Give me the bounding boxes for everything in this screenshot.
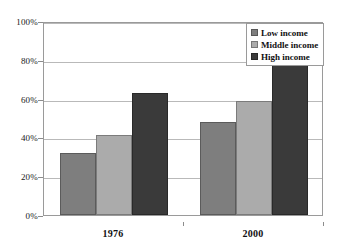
bar-chart: 0%20%40%60%80%100% 19762000 Low incomeMi…	[0, 0, 349, 252]
bar	[132, 93, 168, 215]
legend-item: Middle income	[251, 39, 320, 50]
y-axis-tick-label: 20%	[0, 173, 38, 182]
legend-item-label: High income	[261, 52, 310, 62]
y-axis-tick-label: 40%	[0, 134, 38, 143]
y-axis-tick-mark	[38, 61, 43, 62]
x-axis-tick-label: 1976	[83, 228, 143, 240]
legend-swatch-high-income	[251, 53, 258, 60]
bar	[272, 64, 308, 215]
bar	[200, 122, 236, 215]
x-axis-tick-mark	[183, 222, 184, 226]
chart-legend: Low incomeMiddle incomeHigh income	[246, 23, 324, 66]
x-axis-tick-mark	[323, 222, 324, 226]
bar-group	[60, 23, 168, 215]
legend-item-label: Low income	[261, 28, 308, 38]
x-axis-tick-label: 2000	[223, 228, 283, 240]
bar	[96, 135, 132, 215]
y-axis: 0%20%40%60%80%100%	[0, 22, 38, 216]
y-axis-tick-label: 0%	[0, 212, 38, 221]
bar	[236, 101, 272, 215]
y-axis-tick-mark	[38, 100, 43, 101]
y-axis-tick-mark	[38, 216, 43, 217]
legend-item-label: Middle income	[261, 40, 318, 50]
y-axis-tick-label: 80%	[0, 57, 38, 66]
y-axis-tick-label: 100%	[0, 18, 38, 27]
y-axis-tick-mark	[38, 138, 43, 139]
bar	[60, 153, 96, 215]
legend-swatch-middle-income	[251, 41, 258, 48]
y-axis-tick-mark	[38, 177, 43, 178]
legend-item: Low income	[251, 27, 320, 38]
x-axis: 19762000	[43, 222, 323, 242]
y-axis-tick-mark	[38, 22, 43, 23]
y-axis-tick-label: 60%	[0, 96, 38, 105]
legend-item: High income	[251, 51, 320, 62]
legend-swatch-low-income	[251, 29, 258, 36]
